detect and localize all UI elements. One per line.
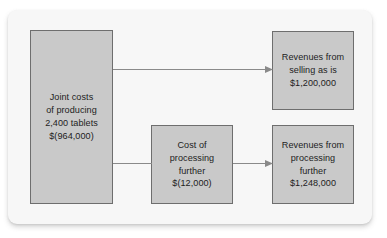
node-cost-processing-text: Cost of processing further $(12,000): [167, 139, 217, 191]
node-revenues-selling-amount: $1,200,000: [282, 77, 344, 90]
node-joint-costs-amount: $(964,000): [45, 130, 98, 143]
arrow-cost-processing-to-revenues-processing-icon: [233, 159, 273, 168]
node-joint-costs-line-2: of producing: [45, 104, 98, 117]
arrow-joint-costs-to-cost-processing-icon: [113, 159, 152, 168]
node-revenues-selling-as-is: Revenues from selling as is $1,200,000: [272, 31, 354, 110]
diagram-root: Joint costs of producing 2,400 tablets $…: [0, 0, 387, 238]
node-revenues-processing-amount: $1,248,000: [282, 177, 344, 190]
node-joint-costs-text: Joint costs of producing 2,400 tablets $…: [42, 91, 101, 143]
node-revenues-selling-text: Revenues from selling as is $1,200,000: [279, 51, 347, 90]
node-revenues-processing-line-3: further: [282, 165, 344, 178]
arrow-joint-costs-to-revenues-selling-icon: [113, 65, 273, 74]
node-revenues-selling-line-1: Revenues from: [282, 51, 344, 64]
node-cost-processing-line-3: further: [170, 165, 214, 178]
node-revenues-processing-text: Revenues from processing further $1,248,…: [279, 139, 347, 191]
node-revenues-processing-line-2: processing: [282, 152, 344, 165]
node-joint-costs: Joint costs of producing 2,400 tablets $…: [30, 30, 113, 204]
node-cost-of-processing-further: Cost of processing further $(12,000): [151, 125, 233, 204]
node-joint-costs-line-3: 2,400 tablets: [45, 117, 98, 130]
node-joint-costs-line-1: Joint costs: [45, 91, 98, 104]
node-cost-processing-line-2: processing: [170, 152, 214, 165]
node-cost-processing-amount: $(12,000): [170, 177, 214, 190]
node-cost-processing-line-1: Cost of: [170, 139, 214, 152]
node-revenues-selling-line-2: selling as is: [282, 64, 344, 77]
node-revenues-processing-line-1: Revenues from: [282, 139, 344, 152]
node-revenues-processing-further: Revenues from processing further $1,248,…: [272, 125, 354, 204]
